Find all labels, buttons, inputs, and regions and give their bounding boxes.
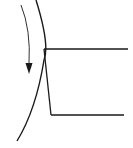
rotation-arrow <box>21 5 29 64</box>
workpiece-arc <box>17 0 46 141</box>
arrow-head-icon <box>26 63 33 74</box>
tool-flank-edge <box>44 49 51 115</box>
diagram-svg <box>0 0 133 148</box>
diagram-canvas <box>0 0 133 148</box>
